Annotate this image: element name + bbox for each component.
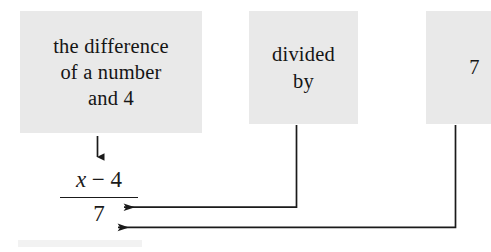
phrase-line: of a number [60, 59, 161, 85]
fraction-numerator: x − 4 [60, 168, 138, 194]
numerator-variable: x [76, 167, 86, 192]
scan-artifact [18, 240, 142, 247]
fraction-bar [60, 197, 138, 198]
phrase-line: 7 [437, 54, 479, 80]
phrase-box-difference: the difference of a number and 4 [20, 11, 202, 133]
phrase-box-divided-by: divided by [249, 11, 358, 124]
diagram-canvas: the difference of a number and 4 divided… [0, 0, 491, 252]
fraction-expression: x − 4 7 [60, 168, 138, 228]
numerator-operand: 4 [111, 167, 123, 192]
arrow-elbow-seven-to-denominator [118, 125, 456, 227]
phrase-line: by [293, 68, 314, 94]
numerator-minus-sign: − [92, 167, 105, 192]
arrow-elbow-divided-by-to-bar [124, 125, 297, 207]
phrase-line: and 4 [88, 85, 134, 111]
phrase-line: divided [272, 41, 335, 67]
phrase-line: the difference [53, 33, 169, 59]
fraction-denominator: 7 [60, 200, 138, 228]
phrase-box-seven: 7 [426, 11, 491, 124]
